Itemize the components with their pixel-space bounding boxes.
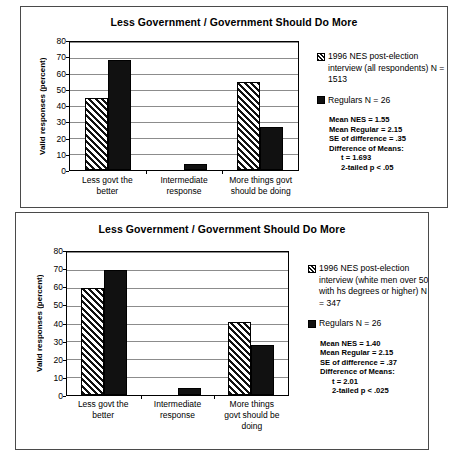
statistic-line: Mean Regular = 2.15 bbox=[320, 348, 432, 358]
bar bbox=[237, 82, 260, 170]
solid-swatch-icon bbox=[317, 96, 325, 104]
bar bbox=[178, 388, 201, 395]
statistic-line: SE of difference = .37 bbox=[320, 358, 432, 368]
plot-container: Valid responses (percent) 80706050403020… bbox=[34, 251, 289, 396]
bar-groups bbox=[70, 42, 298, 170]
y-tick-label: 20 bbox=[54, 356, 63, 365]
y-tick-label: 30 bbox=[57, 118, 66, 127]
y-tick-label: 80 bbox=[57, 37, 66, 46]
y-tick-label: 20 bbox=[57, 134, 66, 143]
statistic-line: 2-tailed p < .05 bbox=[329, 163, 445, 173]
statistic-line: Mean NES = 1.40 bbox=[320, 339, 432, 349]
chart-panel-all-respondents: Less Government / Government Should Do M… bbox=[20, 6, 448, 208]
x-axis-labels: Less govt thebetterIntermediateresponseM… bbox=[66, 399, 289, 432]
y-tick-label: 80 bbox=[54, 247, 63, 256]
y-tick-label: 30 bbox=[54, 337, 63, 346]
x-tick-mark bbox=[222, 170, 223, 174]
chart-title: Less Government / Government Should Do M… bbox=[16, 223, 428, 235]
hatch-swatch-icon bbox=[317, 53, 325, 61]
bar bbox=[108, 60, 131, 170]
plot-area bbox=[69, 41, 299, 171]
bar-group bbox=[222, 42, 298, 170]
statistic-line: SE of difference = .35 bbox=[329, 134, 445, 144]
x-tick-mark bbox=[146, 170, 147, 174]
legend-item-nes: 1996 NES post-election interview (all re… bbox=[317, 51, 445, 86]
chart-title: Less Government / Government Should Do M… bbox=[21, 16, 447, 28]
x-axis-label: Intermediateresponse bbox=[146, 175, 223, 197]
hatch-swatch-icon bbox=[308, 265, 316, 273]
y-tick-label: 70 bbox=[54, 265, 63, 274]
statistics-block: Mean NES = 1.55Mean Regular = 2.15SE of … bbox=[329, 115, 445, 173]
x-axis-label: More thingsgovt should bedoing bbox=[215, 399, 289, 432]
legend-item-regulars: Regulars N = 26 bbox=[317, 95, 445, 107]
bar-group bbox=[70, 42, 146, 170]
bar bbox=[228, 322, 251, 395]
bar bbox=[184, 164, 207, 170]
y-axis-label: Valid responses (percent) bbox=[37, 41, 49, 171]
bar bbox=[251, 345, 274, 395]
bar bbox=[85, 98, 108, 170]
statistic-line: Difference of Means: bbox=[329, 144, 445, 154]
solid-swatch-icon bbox=[308, 320, 316, 328]
bar bbox=[104, 270, 127, 395]
statistic-line: Difference of Means: bbox=[320, 367, 432, 377]
y-axis-label: Valid responses (percent) bbox=[34, 251, 46, 396]
chart-panel-white-men-subset: Less Government / Government Should Do M… bbox=[15, 212, 429, 450]
plot-container: Valid responses (percent) 80706050403020… bbox=[37, 41, 299, 171]
statistic-line: Mean NES = 1.55 bbox=[329, 115, 445, 125]
x-axis-label: Less govt thebetter bbox=[66, 399, 140, 432]
bar-group bbox=[67, 252, 141, 395]
y-axis-ticks: 80706050403020100 bbox=[46, 251, 66, 396]
x-axis-label: Intermediateresponse bbox=[140, 399, 214, 432]
legend-item-nes: 1996 NES post-election interview (white … bbox=[308, 263, 432, 309]
statistic-line: Mean Regular = 2.15 bbox=[329, 125, 445, 135]
legend-label: 1996 NES post-election interview (all re… bbox=[328, 51, 445, 86]
y-tick-label: 70 bbox=[57, 53, 66, 62]
bar bbox=[260, 127, 283, 170]
chart-legend: 1996 NES post-election interview (all re… bbox=[317, 51, 445, 173]
x-axis-labels: Less govt thebetterIntermediateresponseM… bbox=[69, 175, 299, 197]
x-axis-label: Less govt thebetter bbox=[69, 175, 146, 197]
y-tick-label: 60 bbox=[54, 283, 63, 292]
legend-item-regulars: Regulars N = 26 bbox=[308, 318, 432, 330]
y-axis-ticks: 80706050403020100 bbox=[49, 41, 69, 171]
legend-label: 1996 NES post-election interview (white … bbox=[319, 263, 432, 309]
statistic-line: 2-tailed p < .025 bbox=[320, 386, 432, 396]
legend-label: Regulars N = 26 bbox=[319, 318, 432, 330]
bar-group bbox=[146, 42, 222, 170]
statistics-block: Mean NES = 1.40Mean Regular = 2.15SE of … bbox=[320, 339, 432, 397]
statistic-line: t = 1.693 bbox=[329, 153, 445, 163]
x-axis-label: More things govtshould be doing bbox=[222, 175, 299, 197]
y-tick-label: 10 bbox=[57, 151, 66, 160]
y-tick-label: 10 bbox=[54, 374, 63, 383]
y-tick-label: 50 bbox=[57, 86, 66, 95]
chart-legend: 1996 NES post-election interview (white … bbox=[308, 263, 432, 396]
y-tick-label: 40 bbox=[54, 319, 63, 328]
bar-group bbox=[141, 252, 215, 395]
y-tick-label: 50 bbox=[54, 301, 63, 310]
bar bbox=[81, 288, 104, 395]
legend-label: Regulars N = 26 bbox=[328, 95, 445, 107]
statistic-line: t = 2.01 bbox=[320, 377, 432, 387]
y-tick-label: 40 bbox=[57, 102, 66, 111]
bar-group bbox=[214, 252, 288, 395]
bar-groups bbox=[67, 252, 288, 395]
y-tick-label: 60 bbox=[57, 69, 66, 78]
plot-area bbox=[66, 251, 289, 396]
